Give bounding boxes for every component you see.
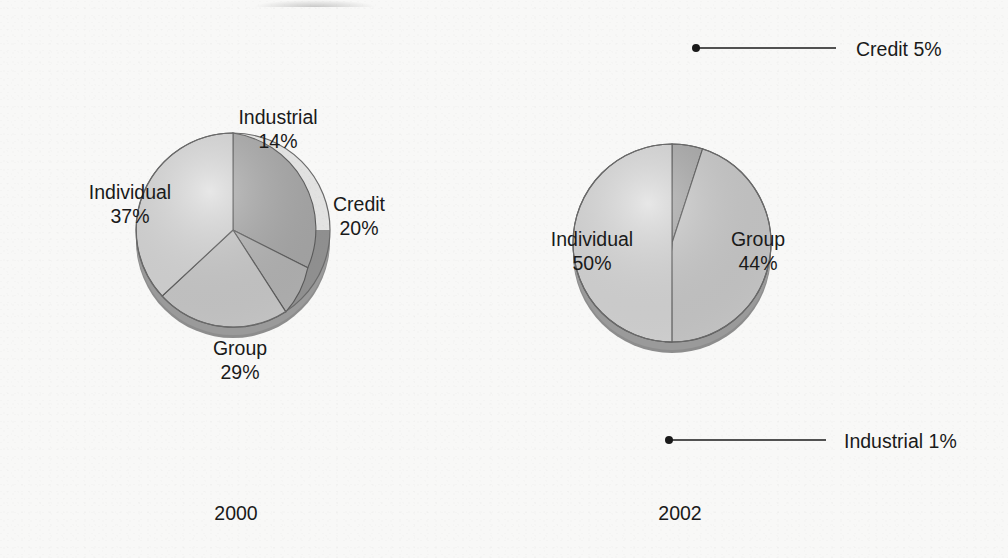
slice-label-individual-name-2000: Individual: [89, 181, 171, 203]
callout-industrial-2002: Industrial 1%: [665, 430, 957, 452]
pie-chart-2002: Individual 50% Group 44% Credit 5% Indus…: [551, 38, 957, 524]
slice-label-credit-name-2000: Credit: [333, 193, 386, 215]
slice-label-individual-percent-2002: 50%: [572, 252, 611, 274]
slice-label-group-percent-2002: 44%: [738, 252, 777, 274]
callout-label-industrial: Industrial 1%: [844, 430, 957, 452]
callout-label-credit: Credit 5%: [856, 38, 942, 60]
pie-chart-2000: Industrial 14% Credit 20% Group 29% Indi…: [89, 106, 386, 524]
callout-credit-2002: Credit 5%: [692, 38, 942, 60]
slice-label-group-name-2000: Group: [213, 337, 267, 359]
slice-label-group-name-2002: Group: [731, 228, 785, 250]
charts-canvas: Industrial 14% Credit 20% Group 29% Indi…: [0, 0, 1008, 558]
slice-label-individual-percent-2000: 37%: [110, 205, 149, 227]
slice-label-credit-percent-2000: 20%: [339, 217, 378, 239]
pie-chart-figure: Industrial 14% Credit 20% Group 29% Indi…: [0, 0, 1008, 558]
pie-face-shading-2000: [136, 133, 330, 327]
slice-label-group-percent-2000: 29%: [220, 361, 259, 383]
slice-label-individual-name-2002: Individual: [551, 228, 633, 250]
slice-label-industrial-percent-2000: 14%: [258, 130, 297, 152]
year-label-2000: 2000: [214, 502, 258, 524]
slice-label-industrial-name-2000: Industrial: [238, 106, 317, 128]
year-label-2002: 2002: [658, 502, 701, 524]
